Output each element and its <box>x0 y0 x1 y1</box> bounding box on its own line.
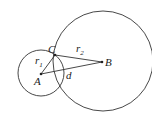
label-d: d <box>66 69 72 81</box>
label-c: C <box>48 43 56 55</box>
label-a: A <box>33 75 41 87</box>
segment-cb <box>55 55 102 62</box>
label-b: B <box>105 56 112 68</box>
label-r1: r1 <box>35 54 43 69</box>
two-circles-diagram: C A B r1 r2 d <box>0 0 152 116</box>
point-b <box>101 61 104 64</box>
label-r2: r2 <box>76 42 84 57</box>
segment-ab <box>41 62 102 74</box>
